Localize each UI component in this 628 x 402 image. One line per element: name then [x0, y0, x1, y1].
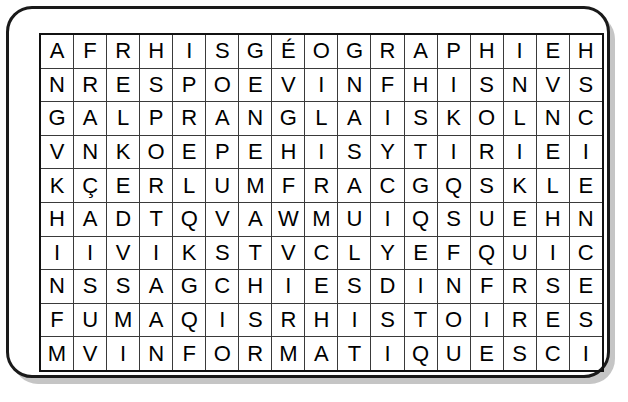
grid-cell[interactable]: I: [569, 135, 603, 169]
grid-cell[interactable]: R: [74, 68, 107, 102]
grid-cell[interactable]: R: [107, 34, 140, 68]
grid-cell[interactable]: G: [404, 169, 437, 203]
grid-cell[interactable]: I: [74, 236, 107, 270]
grid-cell[interactable]: E: [569, 169, 603, 203]
grid-cell[interactable]: V: [206, 202, 239, 236]
grid-cell[interactable]: I: [437, 135, 470, 169]
grid-cell[interactable]: S: [338, 135, 371, 169]
grid-cell[interactable]: V: [272, 236, 305, 270]
grid-cell[interactable]: U: [437, 337, 470, 371]
grid-cell[interactable]: U: [206, 169, 239, 203]
grid-cell[interactable]: A: [140, 303, 173, 337]
grid-cell[interactable]: Y: [371, 236, 404, 270]
grid-cell[interactable]: Y: [371, 135, 404, 169]
grid-cell[interactable]: T: [338, 337, 371, 371]
grid-cell[interactable]: O: [140, 135, 173, 169]
grid-cell[interactable]: V: [272, 68, 305, 102]
grid-cell[interactable]: R: [239, 337, 272, 371]
grid-cell[interactable]: U: [338, 202, 371, 236]
grid-cell[interactable]: S: [140, 68, 173, 102]
grid-cell[interactable]: S: [503, 337, 536, 371]
grid-cell[interactable]: G: [173, 270, 206, 304]
grid-cell[interactable]: I: [305, 135, 338, 169]
grid-cell[interactable]: A: [338, 169, 371, 203]
grid-cell[interactable]: R: [272, 303, 305, 337]
grid-cell[interactable]: V: [107, 236, 140, 270]
grid-cell[interactable]: K: [437, 102, 470, 136]
grid-cell[interactable]: G: [338, 34, 371, 68]
grid-cell[interactable]: I: [470, 303, 503, 337]
grid-cell[interactable]: R: [140, 169, 173, 203]
grid-cell[interactable]: C: [206, 270, 239, 304]
grid-cell[interactable]: G: [239, 34, 272, 68]
grid-cell[interactable]: L: [173, 169, 206, 203]
grid-cell[interactable]: E: [239, 68, 272, 102]
grid-cell[interactable]: Q: [173, 202, 206, 236]
grid-cell[interactable]: K: [107, 135, 140, 169]
grid-cell[interactable]: A: [239, 202, 272, 236]
grid-cell[interactable]: U: [74, 303, 107, 337]
grid-cell[interactable]: S: [470, 169, 503, 203]
grid-cell[interactable]: N: [569, 202, 603, 236]
grid-cell[interactable]: W: [272, 202, 305, 236]
grid-cell[interactable]: N: [40, 270, 74, 304]
grid-cell[interactable]: F: [74, 34, 107, 68]
grid-cell[interactable]: S: [74, 270, 107, 304]
grid-cell[interactable]: G: [40, 102, 74, 136]
grid-cell[interactable]: R: [470, 135, 503, 169]
grid-cell[interactable]: D: [371, 270, 404, 304]
grid-cell[interactable]: T: [404, 303, 437, 337]
grid-cell[interactable]: S: [371, 303, 404, 337]
grid-cell[interactable]: E: [536, 34, 569, 68]
grid-cell[interactable]: I: [305, 68, 338, 102]
grid-cell[interactable]: I: [536, 236, 569, 270]
grid-cell[interactable]: N: [40, 68, 74, 102]
grid-cell[interactable]: C: [569, 102, 603, 136]
grid-cell[interactable]: A: [74, 202, 107, 236]
grid-cell[interactable]: N: [338, 68, 371, 102]
grid-cell[interactable]: E: [536, 135, 569, 169]
grid-cell[interactable]: E: [569, 270, 603, 304]
grid-cell[interactable]: M: [107, 303, 140, 337]
grid-cell[interactable]: I: [107, 337, 140, 371]
grid-cell[interactable]: T: [140, 202, 173, 236]
grid-cell[interactable]: I: [338, 303, 371, 337]
grid-cell[interactable]: H: [569, 34, 603, 68]
grid-cell[interactable]: I: [503, 34, 536, 68]
grid-cell[interactable]: F: [470, 270, 503, 304]
grid-cell[interactable]: I: [569, 337, 603, 371]
grid-cell[interactable]: I: [371, 202, 404, 236]
grid-cell[interactable]: H: [272, 135, 305, 169]
grid-cell[interactable]: E: [503, 202, 536, 236]
grid-cell[interactable]: I: [371, 102, 404, 136]
grid-cell[interactable]: F: [371, 68, 404, 102]
grid-cell[interactable]: K: [173, 236, 206, 270]
grid-cell[interactable]: Q: [437, 169, 470, 203]
grid-cell[interactable]: E: [107, 169, 140, 203]
grid-cell[interactable]: A: [74, 102, 107, 136]
grid-cell[interactable]: R: [173, 102, 206, 136]
grid-cell[interactable]: T: [404, 135, 437, 169]
grid-cell[interactable]: L: [305, 102, 338, 136]
grid-cell[interactable]: A: [338, 102, 371, 136]
grid-cell[interactable]: R: [305, 169, 338, 203]
grid-cell[interactable]: I: [404, 270, 437, 304]
grid-cell[interactable]: A: [140, 270, 173, 304]
grid-cell[interactable]: I: [437, 68, 470, 102]
grid-cell[interactable]: N: [239, 102, 272, 136]
grid-cell[interactable]: H: [404, 68, 437, 102]
grid-cell[interactable]: P: [173, 68, 206, 102]
grid-cell[interactable]: S: [569, 303, 603, 337]
grid-cell[interactable]: U: [470, 202, 503, 236]
grid-cell[interactable]: S: [206, 34, 239, 68]
grid-cell[interactable]: L: [338, 236, 371, 270]
grid-cell[interactable]: S: [338, 270, 371, 304]
grid-cell[interactable]: O: [206, 68, 239, 102]
grid-cell[interactable]: O: [206, 337, 239, 371]
grid-cell[interactable]: E: [470, 337, 503, 371]
grid-cell[interactable]: N: [437, 270, 470, 304]
grid-cell[interactable]: H: [536, 202, 569, 236]
grid-cell[interactable]: O: [305, 34, 338, 68]
grid-cell[interactable]: I: [272, 270, 305, 304]
grid-cell[interactable]: M: [239, 169, 272, 203]
